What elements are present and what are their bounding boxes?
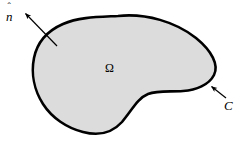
- normal-vector-label: ˆ n: [6, 3, 13, 23]
- boundary-label: C: [224, 99, 233, 112]
- hat-accent: ˆ: [7, 2, 10, 12]
- diagram-canvas: [0, 0, 248, 142]
- boundary-leader-arrow: [212, 87, 227, 99]
- domain-region-shape: [33, 15, 216, 133]
- region-label: Ω: [105, 62, 114, 74]
- figure-container: ˆ n Ω C: [0, 0, 248, 142]
